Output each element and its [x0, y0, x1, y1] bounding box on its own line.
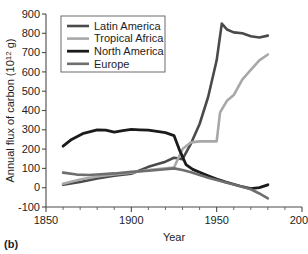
y-axis-tick-label: 700 [22, 46, 40, 58]
legend-label-latin-america: Latin America [94, 20, 162, 32]
series-line-tropical-africa [63, 55, 268, 184]
y-axis-tick-label: 200 [22, 143, 40, 155]
legend-label-tropical-africa: Tropical Africa [94, 32, 164, 44]
legend-label-europe: Europe [94, 58, 129, 70]
y-axis-tick-label: 600 [22, 66, 40, 78]
panel-label: (b) [4, 238, 18, 250]
x-axis-tick-label: 2000 [290, 214, 308, 226]
y-axis-tick-label: -100 [18, 201, 40, 213]
line-chart: -100010020030040050060070080090018501900… [0, 0, 308, 254]
y-axis-tick-label: 100 [22, 162, 40, 174]
y-axis-tick-label: 500 [22, 85, 40, 97]
figure-panel-b: -100010020030040050060070080090018501900… [0, 0, 308, 254]
legend-label-north-america: North America [94, 45, 165, 57]
x-axis-tick-label: 1950 [204, 214, 228, 226]
x-axis-tick-label: 1900 [119, 214, 143, 226]
x-axis-title: Year [163, 231, 186, 243]
y-axis-tick-label: 800 [22, 27, 40, 39]
y-axis-title: Annual flux of carbon (1012 g) [4, 38, 17, 182]
x-axis-tick-label: 1850 [34, 214, 58, 226]
y-axis-tick-label: 300 [22, 123, 40, 135]
y-axis-tick-label: 400 [22, 104, 40, 116]
series-line-europe [63, 168, 268, 198]
y-axis-tick-label: 900 [22, 8, 40, 20]
y-axis-tick-label: 0 [34, 181, 40, 193]
